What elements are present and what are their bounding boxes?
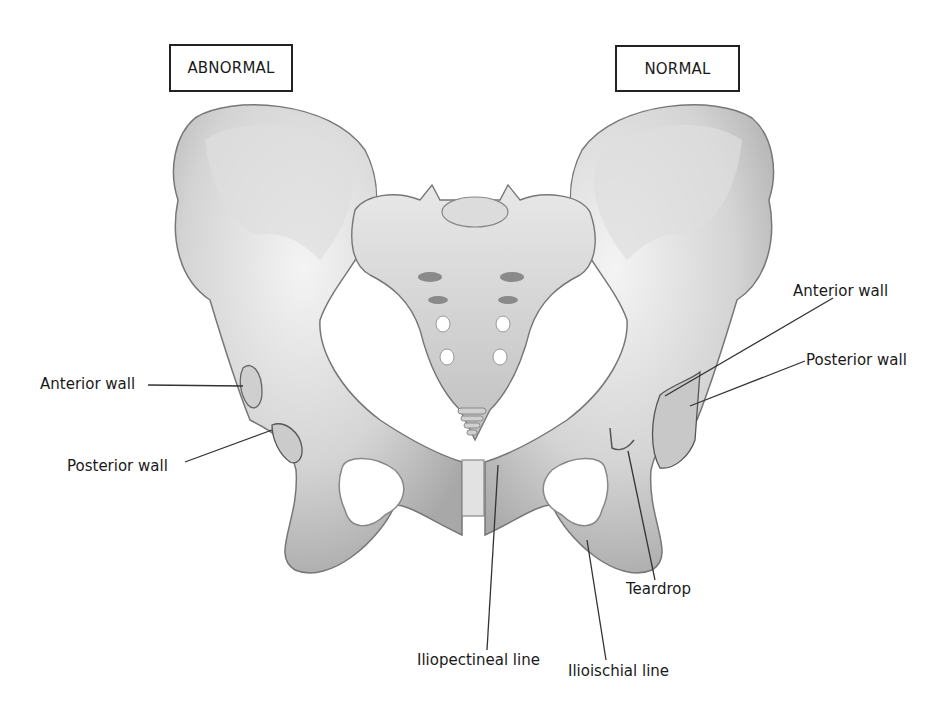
normal-side-label: NORMAL bbox=[615, 45, 740, 92]
label-ilioischial-line: Ilioischial line bbox=[568, 662, 669, 680]
label-iliopectineal-line: Iliopectineal line bbox=[417, 651, 540, 669]
label-left-anterior-wall: Anterior wall bbox=[40, 375, 135, 393]
leader-left-anterior-wall bbox=[148, 385, 243, 386]
abnormal-side-label: ABNORMAL bbox=[169, 44, 293, 92]
label-right-anterior-wall: Anterior wall bbox=[793, 282, 888, 300]
left-hip-bone bbox=[173, 105, 462, 573]
label-right-posterior-wall: Posterior wall bbox=[806, 351, 907, 369]
pelvis-illustration bbox=[0, 0, 947, 708]
leader-left-posterior-wall bbox=[185, 430, 272, 462]
pubic-symphysis bbox=[462, 460, 484, 516]
label-left-posterior-wall: Posterior wall bbox=[67, 457, 168, 475]
sacrum bbox=[352, 185, 595, 440]
label-teardrop: Teardrop bbox=[626, 580, 691, 598]
pelvis-diagram: ABNORMAL NORMAL Anterior wall Posterior … bbox=[0, 0, 947, 708]
